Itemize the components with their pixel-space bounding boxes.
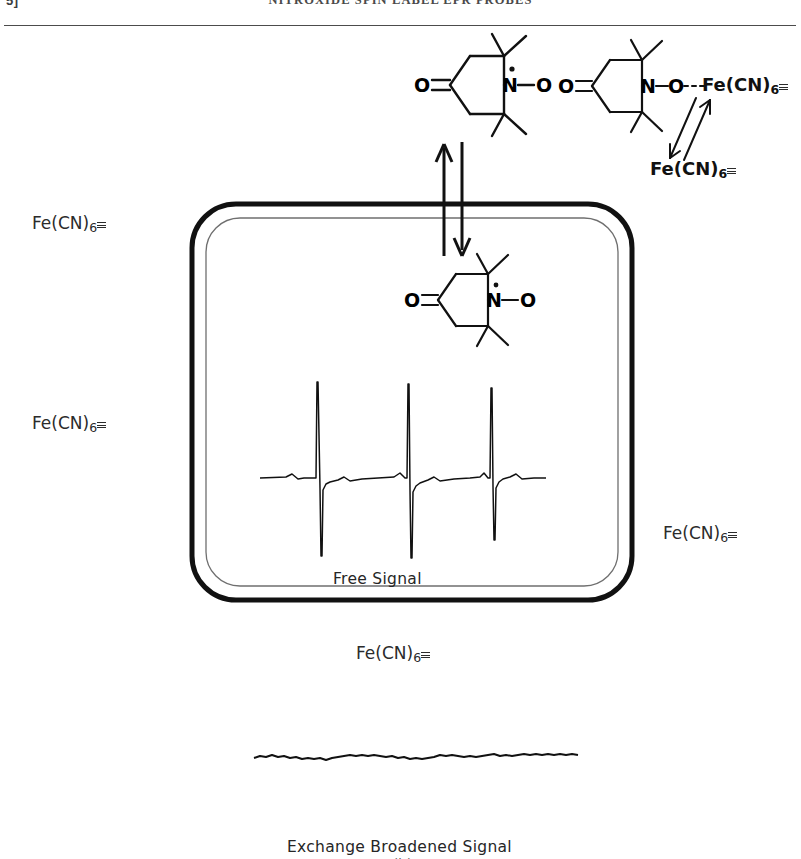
nitrogen-label: N xyxy=(502,74,518,96)
radical-dot-icon xyxy=(509,66,514,71)
free-signal-trace xyxy=(260,382,546,558)
ferricyanide-label-left-upper: Fe(CN)6 xyxy=(32,215,97,232)
charge-3-minus-icon xyxy=(97,222,106,229)
charge-3-minus-icon xyxy=(421,652,430,659)
ferricyanide-subscript: 6 xyxy=(720,530,728,545)
complex-nitrogen-label: N xyxy=(640,75,656,97)
complex-ferricyanide-text: Fe(CN) xyxy=(702,74,771,95)
ferricyanide-label-left-lower: Fe(CN)6 xyxy=(32,415,97,432)
ferricyanide-subscript: 6 xyxy=(413,650,421,665)
free-ferricyanide-subscript: 6 xyxy=(719,166,728,181)
ferricyanide-text: Fe(CN) xyxy=(32,413,89,433)
complex-carbonyl-oxygen-label: O xyxy=(558,75,574,97)
free-ferricyanide-label-complex: Fe(CN)6 xyxy=(650,160,727,178)
ferricyanide-label-bottom-center: Fe(CN)6 xyxy=(356,645,421,662)
ferricyanide-subscript: 6 xyxy=(89,220,97,235)
carbonyl-oxygen-label: O xyxy=(414,74,430,96)
complex-ferricyanide-label: Fe(CN)6 xyxy=(702,76,779,94)
transmembrane-equilibrium-arrows xyxy=(432,140,478,258)
charge-3-minus-icon xyxy=(727,168,736,175)
header-rule xyxy=(4,25,796,26)
internal-radical-dot-icon xyxy=(494,283,499,288)
internal-nitrogen-label: N xyxy=(486,289,502,311)
spectrum-free-signal xyxy=(258,378,548,568)
internal-carbonyl-oxygen-label: O xyxy=(404,289,420,311)
charge-3-minus-icon xyxy=(728,532,737,539)
ferricyanide-text: Fe(CN) xyxy=(356,643,413,663)
figure-page: 5] NITROXIDE SPIN LABEL EPR PROBES xyxy=(0,0,801,859)
free-ferricyanide-text: Fe(CN) xyxy=(650,158,719,179)
free-signal-caption: Free Signal xyxy=(333,570,422,588)
running-head-title: NITROXIDE SPIN LABEL EPR PROBES xyxy=(0,0,801,8)
complex-nitroxide-oxygen-label: O xyxy=(668,75,684,97)
ferricyanide-text: Fe(CN) xyxy=(663,523,720,543)
broadened-signal-trace xyxy=(254,754,578,760)
ferricyanide-text: Fe(CN) xyxy=(32,213,89,233)
nitroxide-oxygen-label: O xyxy=(536,74,552,96)
internal-nitroxide-oxygen-label: O xyxy=(520,289,536,311)
complexation-equilibrium-arrows xyxy=(658,96,738,164)
exchange-broadened-caption: Exchange Broadened Signal xyxy=(287,838,512,856)
ferricyanide-subscript: 6 xyxy=(89,420,97,435)
charge-3-minus-icon xyxy=(97,422,106,429)
ferricyanide-label-right-middle: Fe(CN)6 xyxy=(663,525,728,542)
complex-ferricyanide-subscript: 6 xyxy=(771,82,780,97)
charge-3-minus-icon xyxy=(779,84,788,91)
structure-internal-nitroxide: O N O xyxy=(398,250,568,350)
running-head: 5] NITROXIDE SPIN LABEL EPR PROBES xyxy=(0,0,801,15)
spectrum-exchange-broadened xyxy=(252,742,582,772)
